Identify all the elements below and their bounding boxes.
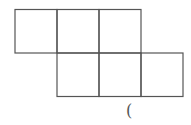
cube-net-diagram: [0, 0, 191, 125]
net-square-bottom-2: [99, 53, 141, 97]
net-square-top-1: [15, 10, 57, 54]
net-square-top-3: [99, 10, 141, 54]
answer-bracket: (: [126, 103, 132, 119]
net-square-bottom-3: [141, 53, 183, 97]
net-square-top-2: [57, 10, 99, 54]
net-square-bottom-1: [57, 53, 99, 97]
